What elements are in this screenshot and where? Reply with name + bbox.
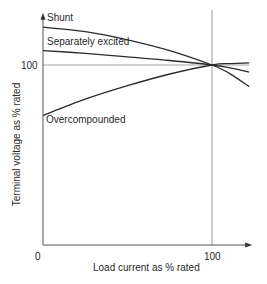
y-tick-label-100: 100 xyxy=(21,60,38,71)
series-label-separately-excited: Separately excited xyxy=(47,36,129,47)
series-line-overcompounded xyxy=(43,63,249,116)
series-line-separately-excited xyxy=(43,51,249,73)
series-label-shunt: Shunt xyxy=(47,12,73,23)
x-tick-label-0: 0 xyxy=(35,251,41,262)
x-tick-label-100: 100 xyxy=(204,251,221,262)
y-axis-arrow-icon xyxy=(41,13,46,20)
axes xyxy=(41,13,253,248)
x-axis-arrow-icon xyxy=(245,243,252,248)
y-axis-title: Terminal voltage as % rated xyxy=(11,78,22,212)
chart-canvas xyxy=(0,0,267,284)
x-axis-title: Load current as % rated xyxy=(93,262,200,273)
series-label-overcompounded: Overcompounded xyxy=(46,114,126,125)
